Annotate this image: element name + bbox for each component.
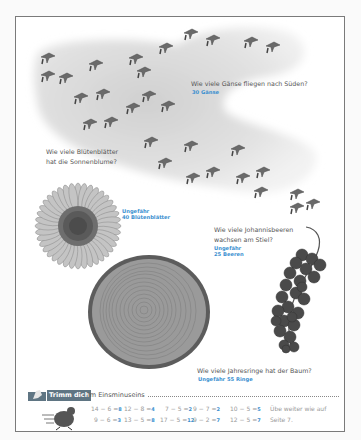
equation: 14 − 6 =8 bbox=[91, 404, 122, 414]
trimm-title: im Einsminuseins bbox=[88, 390, 145, 400]
currants-answer-line2: 25 Beeren bbox=[214, 251, 244, 258]
trimm-badge: Trimm dich bbox=[47, 390, 91, 401]
tree-question: Wie viele Jahresringe hat der Baum? bbox=[197, 366, 312, 375]
equation: 12 − 5 =7 bbox=[230, 415, 261, 425]
running-mouse-icon bbox=[42, 405, 82, 431]
tree-ring-image bbox=[86, 254, 216, 372]
equation: 9 − 6 =3 bbox=[94, 415, 121, 425]
equation: 9 − 7 =2 bbox=[193, 404, 220, 414]
worksheet-page: Wie viele Gänse fliegen nach Süden? 30 G… bbox=[15, 16, 345, 432]
dotted-divider bbox=[148, 396, 339, 397]
sunflower-answer-line2: 40 Blütenblätter bbox=[122, 214, 170, 221]
equation: 17 − 5 =12 bbox=[160, 415, 194, 425]
sunflower-question-line1: Wie viele Blütenblätter bbox=[46, 147, 118, 156]
currants-image bbox=[256, 225, 336, 355]
sunflower-question-line2: hat die Sonnenblume? bbox=[46, 157, 117, 166]
equation: 10 − 5 =5 bbox=[230, 404, 261, 414]
equation: 9 − 2 =7 bbox=[193, 415, 220, 425]
practice-note-line2: Seite 7. bbox=[270, 415, 293, 425]
exercise-icon bbox=[28, 389, 46, 401]
equation: 12 − 8 =4 bbox=[124, 404, 155, 414]
equation: 13 − 5 =8 bbox=[124, 415, 155, 425]
trimm-header: Trimm dich im Einsminuseins bbox=[21, 389, 339, 403]
practice-note-line1: Übe weiter wie auf bbox=[270, 404, 326, 414]
geese-question: Wie viele Gänse fliegen nach Süden? bbox=[191, 79, 308, 88]
equation: 7 − 5 =2 bbox=[165, 404, 192, 414]
tree-answer: Ungefähr 55 Ringe bbox=[198, 376, 253, 383]
geese-answer: 30 Gänse bbox=[192, 89, 219, 96]
